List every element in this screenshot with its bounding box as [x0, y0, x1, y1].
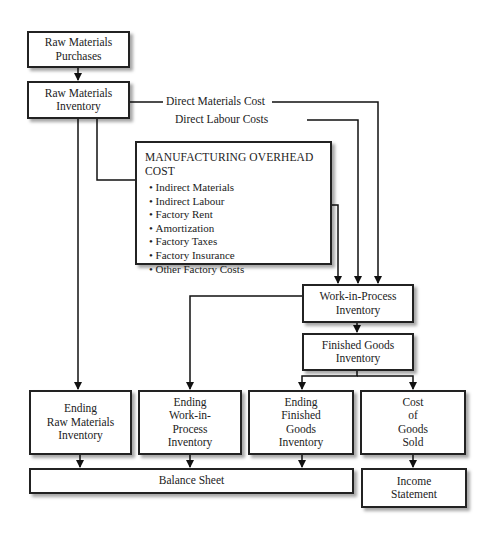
node-text: Inventory — [279, 436, 324, 450]
node-text: Goods — [286, 423, 316, 437]
manufacturing-overhead-node: MANUFACTURING OVERHEAD COST Indirect Mat… — [135, 141, 332, 265]
overhead-items: Indirect Materials Indirect Labour Facto… — [145, 181, 244, 276]
node-text: Balance Sheet — [159, 474, 224, 488]
ending-finished-goods-node: Ending Finished Goods Inventory — [248, 390, 354, 455]
node-text: Finished — [281, 409, 321, 423]
overhead-item: Factory Taxes — [149, 235, 244, 249]
direct-labour-costs-label: Direct Labour Costs — [172, 113, 271, 125]
node-text: Raw Materials — [47, 416, 114, 430]
node-text: Ending — [173, 396, 206, 410]
direct-materials-cost-label: Direct Materials Cost — [163, 95, 268, 107]
finished-goods-node: Finished Goods Inventory — [302, 333, 414, 371]
node-text: Work-in-Process — [319, 290, 396, 304]
raw-materials-inventory-node: Raw Materials Inventory — [27, 81, 130, 119]
income-statement-node: Income Statement — [361, 468, 467, 508]
overhead-title: MANUFACTURING OVERHEAD COST — [145, 151, 330, 178]
node-text: of — [408, 409, 418, 423]
overhead-item: Amortization — [149, 222, 244, 236]
node-text: Raw Materials — [45, 36, 112, 50]
overhead-item: Other Factory Costs — [149, 263, 244, 277]
node-text: Ending — [64, 402, 97, 416]
node-text: Inventory — [56, 100, 101, 114]
node-text: Inventory — [58, 429, 103, 443]
node-text: Inventory — [336, 352, 381, 366]
overhead-item: Indirect Labour — [149, 195, 244, 209]
node-text: Sold — [402, 436, 423, 450]
ending-wip-node: Ending Work-in- Process Inventory — [138, 390, 242, 455]
node-text: Finished Goods — [322, 339, 395, 353]
node-text: Income — [397, 475, 431, 489]
cost-of-goods-sold-node: Cost of Goods Sold — [360, 390, 466, 455]
node-text: Ending — [284, 396, 317, 410]
node-text: Work-in- — [169, 409, 211, 423]
node-text: Inventory — [168, 436, 213, 450]
node-text: Purchases — [56, 50, 102, 64]
node-text: Goods — [398, 423, 428, 437]
node-text: Inventory — [336, 304, 381, 318]
ending-raw-materials-node: Ending Raw Materials Inventory — [29, 390, 132, 455]
node-text: Process — [172, 423, 207, 437]
work-in-process-node: Work-in-Process Inventory — [302, 284, 414, 323]
overhead-item: Factory Rent — [149, 208, 244, 222]
node-text: Statement — [391, 488, 437, 502]
overhead-item: Indirect Materials — [149, 181, 244, 195]
raw-materials-purchases-node: Raw Materials Purchases — [27, 31, 130, 68]
node-text: Cost — [402, 396, 423, 410]
overhead-item: Factory Insurance — [149, 249, 244, 263]
node-text: Raw Materials — [45, 87, 112, 101]
balance-sheet-node: Balance Sheet — [29, 468, 354, 494]
